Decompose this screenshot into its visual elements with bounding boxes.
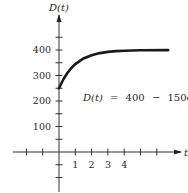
x-tick-label: 1	[72, 159, 78, 170]
y-tick-label: 400	[33, 44, 51, 55]
y-tick-label: 300	[33, 70, 51, 81]
y-axis-title: D(t)	[48, 2, 69, 13]
x-tick-label: 4	[121, 159, 127, 170]
y-tick-label: 200	[33, 95, 51, 106]
formula-annotation: D(t) = 400 − 150e −t	[82, 90, 188, 103]
x-tick-label: 2	[89, 159, 95, 170]
curve-d-of-t	[59, 50, 168, 88]
x-axis-title: t	[184, 147, 188, 158]
y-axis-tick-labels: 100200300400	[33, 44, 51, 132]
formula-constant: 400	[126, 92, 145, 103]
x-axis-tick-labels: 1234	[72, 159, 127, 170]
y-tick-label: 100	[33, 121, 51, 132]
formula-minus: −	[152, 92, 160, 103]
formula-coefficient: 150e	[167, 92, 188, 103]
formula-equals: =	[110, 92, 118, 103]
formula-lhs: D(t)	[82, 92, 103, 103]
chart: 1234 100200300400 D(t) t D(t) = 400 − 15…	[0, 0, 188, 193]
x-tick-label: 3	[105, 159, 111, 170]
